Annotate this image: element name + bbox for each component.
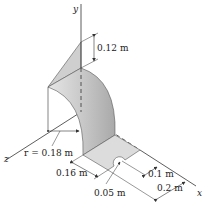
composite-plate-diagram: y z x 0.12 m r = 0.18 m 0.16 m 0.05 m 0.… [0,0,211,207]
dim-012-label: 0.12 m [97,43,129,53]
x-axis-label: x [197,188,202,198]
radius-center-dot [47,130,49,132]
radius-leader [52,131,60,146]
dim-016-ext2 [94,170,108,179]
dim-016-label: 0.16 m [56,168,88,178]
x-axis [140,150,196,186]
y-axis-label: y [72,4,79,14]
z-axis-label: z [3,154,9,164]
dim-01-label: 0.1 m [148,169,174,179]
dim-02-label: 0.2 m [157,183,183,193]
dim-012-ext-top [81,33,98,42]
radius-label: r = 0.18 m [24,148,73,158]
dim-005-label: 0.05 m [94,188,126,198]
dim-012-ext-bot [81,59,98,68]
dim-01-ext [122,161,145,175]
